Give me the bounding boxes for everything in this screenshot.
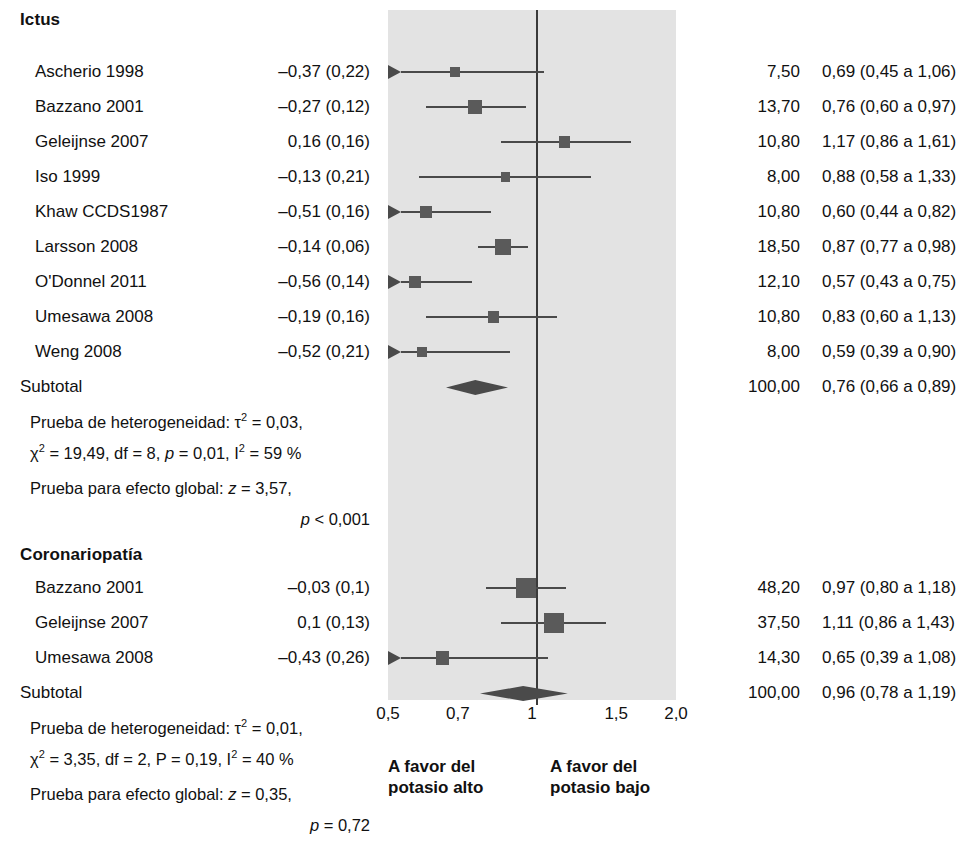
ci-arrow-left-icon (388, 205, 401, 219)
risk-ratio-value: 1,17 (0,86 a 1,61) (822, 132, 956, 152)
axis-tick-label: 0,7 (418, 704, 498, 724)
statistics-line: χ2 = 19,49, df = 8, p = 0,01, I2 = 59 % (30, 442, 301, 463)
ci-arrow-left-icon (388, 275, 401, 289)
weight-value: 14,30 (650, 648, 800, 668)
study-weight-marker (544, 613, 564, 633)
summary-diamond (480, 686, 568, 701)
weight-value: 13,70 (650, 97, 800, 117)
risk-ratio-value: 0,57 (0,43 a 0,75) (822, 272, 956, 292)
subtotal-label: Subtotal (20, 683, 82, 703)
study-weight-marker (501, 172, 511, 182)
effect-estimate: –0,03 (0,1) (110, 578, 370, 598)
summary-diamond (446, 380, 508, 395)
subtotal-risk-ratio: 0,76 (0,66 a 0,89) (822, 377, 956, 397)
weight-value: 10,80 (650, 132, 800, 152)
forest-plot: IctusAscherio 1998–0,37 (0,22)7,500,69 (… (0, 0, 978, 852)
statistics-line: p = 0,72 (30, 816, 370, 835)
risk-ratio-value: 0,60 (0,44 a 0,82) (822, 202, 956, 222)
study-label: Iso 1999 (35, 167, 100, 187)
subtotal-label: Subtotal (20, 377, 82, 397)
risk-ratio-value: 0,97 (0,80 a 1,18) (822, 578, 956, 598)
axis-tick-label: 1 (492, 704, 572, 724)
study-weight-marker (409, 276, 421, 288)
statistics-line: Prueba de heterogeneidad: τ2 = 0,01, (30, 717, 303, 738)
study-weight-marker (420, 206, 431, 217)
axis-tick-label: 0,5 (348, 704, 428, 724)
ci-arrow-left-icon (388, 345, 401, 359)
study-weight-marker (450, 67, 460, 77)
risk-ratio-value: 0,87 (0,77 a 0,98) (822, 237, 956, 257)
subtotal-risk-ratio: 0,96 (0,78 a 1,19) (822, 683, 956, 703)
study-weight-marker (417, 347, 427, 357)
axis-tick-label: 2,0 (636, 704, 716, 724)
study-weight-marker (495, 239, 511, 255)
study-weight-marker (468, 100, 481, 113)
risk-ratio-value: 0,88 (0,58 a 1,33) (822, 167, 956, 187)
weight-value: 37,50 (650, 613, 800, 633)
study-label: Weng 2008 (35, 342, 122, 362)
risk-ratio-value: 0,69 (0,45 a 1,06) (822, 62, 956, 82)
group-heading-coronariopatia: Coronariopatía (20, 545, 142, 565)
effect-estimate: –0,43 (0,26) (110, 648, 370, 668)
confidence-interval-line (401, 657, 548, 659)
footer-left-line1: A favor del (388, 757, 475, 776)
study-weight-marker (436, 651, 450, 665)
study-weight-marker (488, 311, 499, 322)
statistics-line: χ2 = 3,35, df = 2, P = 0,19, I2 = 40 % (30, 748, 294, 769)
study-weight-marker (559, 136, 570, 147)
confidence-interval-line (401, 211, 491, 213)
effect-estimate: 0,1 (0,13) (110, 613, 370, 633)
weight-value: 48,20 (650, 578, 800, 598)
statistics-line: Prueba para efecto global: z = 3,57, (30, 479, 292, 498)
effect-estimate: –0,51 (0,16) (110, 202, 370, 222)
effect-estimate: –0,56 (0,14) (110, 272, 370, 292)
effect-estimate: 0,16 (0,16) (110, 132, 370, 152)
footer-right-line2: potasio bajo (550, 778, 650, 797)
null-effect-line (536, 10, 538, 705)
footer-label-left: A favor delpotasio alto (388, 756, 483, 798)
weight-value: 7,50 (650, 62, 800, 82)
effect-estimate: –0,19 (0,16) (110, 307, 370, 327)
statistics-line: Prueba para efecto global: z = 0,35, (30, 785, 292, 804)
risk-ratio-value: 1,11 (0,86 a 1,43) (822, 613, 955, 633)
risk-ratio-value: 0,59 (0,39 a 0,90) (822, 342, 956, 362)
ci-arrow-left-icon (388, 651, 401, 665)
risk-ratio-value: 0,76 (0,60 a 0,97) (822, 97, 956, 117)
statistics-line: Prueba de heterogeneidad: τ2 = 0,03, (30, 411, 303, 432)
effect-estimate: –0,37 (0,22) (110, 62, 370, 82)
confidence-interval-line (401, 71, 544, 73)
statistics-line: p < 0,001 (30, 510, 370, 529)
subtotal-weight: 100,00 (650, 683, 800, 703)
footer-left-line2: potasio alto (388, 778, 483, 797)
effect-estimate: –0,27 (0,12) (110, 97, 370, 117)
group-heading-ictus: Ictus (20, 10, 60, 30)
subtotal-weight: 100,00 (650, 377, 800, 397)
weight-value: 12,10 (650, 272, 800, 292)
weight-value: 8,00 (650, 342, 800, 362)
footer-right-line1: A favor del (550, 757, 637, 776)
weight-value: 8,00 (650, 167, 800, 187)
footer-label-right: A favor delpotasio bajo (550, 756, 650, 798)
weight-value: 10,80 (650, 307, 800, 327)
effect-estimate: –0,52 (0,21) (110, 342, 370, 362)
weight-value: 18,50 (650, 237, 800, 257)
weight-value: 10,80 (650, 202, 800, 222)
effect-estimate: –0,13 (0,21) (110, 167, 370, 187)
study-weight-marker (516, 578, 536, 598)
risk-ratio-value: 0,65 (0,39 a 1,08) (822, 648, 956, 668)
effect-estimate: –0,14 (0,06) (110, 237, 370, 257)
ci-arrow-left-icon (388, 65, 401, 79)
risk-ratio-value: 0,83 (0,60 a 1,13) (822, 307, 956, 327)
